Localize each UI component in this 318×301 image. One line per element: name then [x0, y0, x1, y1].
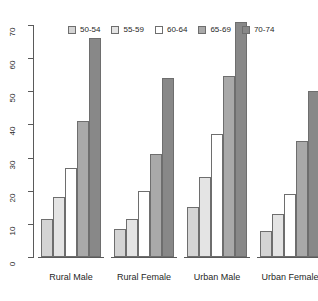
legend-label: 60-64	[167, 25, 187, 34]
bar-group	[114, 25, 174, 257]
bar	[308, 91, 318, 257]
legend-item[interactable]: 65-69	[198, 25, 230, 34]
y-axis-tick	[28, 158, 33, 159]
y-axis-tick	[28, 91, 33, 92]
y-axis-tick-label: 60	[0, 53, 26, 63]
bar	[53, 197, 65, 257]
y-axis-tick-label: 50	[0, 86, 26, 96]
bar	[211, 134, 223, 257]
x-axis-baseline	[111, 257, 177, 258]
x-axis-baseline	[257, 257, 318, 258]
bar	[162, 78, 174, 257]
legend-swatch-icon	[111, 26, 119, 34]
y-axis-tick	[28, 224, 33, 225]
y-axis-tick	[28, 124, 33, 125]
bar	[223, 76, 235, 257]
bar-chart: 010203040506070 Rural MaleRural FemaleUr…	[0, 0, 318, 301]
bar	[65, 168, 77, 257]
bar	[77, 121, 89, 257]
bar	[235, 22, 247, 257]
bar	[187, 207, 199, 257]
chart-legend: 50-5455-5960-6465-6970-74	[68, 25, 285, 34]
legend-swatch-icon	[155, 26, 163, 34]
legend-swatch-icon	[198, 26, 206, 34]
legend-item[interactable]: 60-64	[155, 25, 187, 34]
y-axis-tick-label: 10	[0, 219, 26, 229]
bar	[89, 38, 101, 257]
legend-label: 55-59	[123, 25, 143, 34]
legend-swatch-icon	[242, 26, 250, 34]
y-axis-line	[33, 25, 34, 258]
y-axis-tick-label: 40	[0, 119, 26, 129]
x-axis-baseline	[184, 257, 250, 258]
y-axis-tick-label: 0	[0, 252, 26, 262]
bar	[284, 194, 296, 257]
bar-group	[187, 25, 247, 257]
y-axis-tick	[28, 58, 33, 59]
y-axis-tick-label: 70	[0, 20, 26, 30]
bar	[41, 219, 53, 257]
bar	[296, 141, 308, 257]
legend-item[interactable]: 70-74	[242, 25, 274, 34]
bar	[260, 231, 272, 258]
y-axis-tick	[28, 257, 33, 258]
legend-item[interactable]: 55-59	[111, 25, 143, 34]
y-axis-tick	[28, 191, 33, 192]
y-axis-tick-label: 20	[0, 186, 26, 196]
bar-group	[41, 25, 101, 257]
bar	[138, 191, 150, 257]
y-axis-tick-label: 30	[0, 153, 26, 163]
legend-label: 70-74	[254, 25, 274, 34]
y-axis-tick	[28, 25, 33, 26]
bar	[199, 177, 211, 257]
bar	[272, 214, 284, 257]
x-axis-baseline	[38, 257, 104, 258]
bar	[150, 154, 162, 257]
legend-swatch-icon	[68, 26, 76, 34]
legend-label: 50-54	[80, 25, 100, 34]
bar-group	[260, 25, 318, 257]
bar	[114, 229, 126, 257]
bar	[126, 219, 138, 257]
x-axis-group-label: Urban Female	[238, 272, 318, 282]
legend-item[interactable]: 50-54	[68, 25, 100, 34]
legend-label: 65-69	[210, 25, 230, 34]
